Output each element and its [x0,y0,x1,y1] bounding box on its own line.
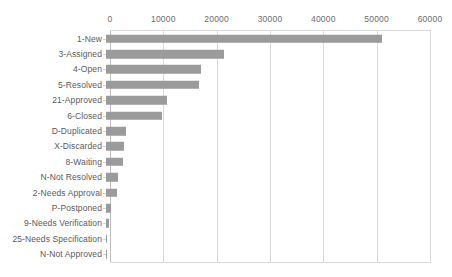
bar[interactable] [106,111,162,119]
category-label: 21-Approved [0,95,106,105]
category-label: 5-Resolved [0,80,106,90]
category-label: 1-New [0,34,106,44]
bar-track [106,108,426,123]
x-tick-label: 20000 [204,14,229,25]
bar[interactable] [106,158,123,166]
chart-row: 5-Resolved [0,77,452,92]
category-label: X-Discarded [0,141,106,151]
bar-track [106,77,426,92]
x-tick-label: 40000 [311,14,336,25]
category-label: 2-Needs Approval [0,188,106,198]
bar-track [106,93,426,108]
chart-row: 25-Needs Specification [0,231,452,246]
category-label: N-Not Approved [0,249,106,259]
category-label: N-Not Resolved [0,172,106,182]
x-tick-label: 60000 [418,14,443,25]
bar[interactable] [106,50,224,58]
bar-track [106,200,426,215]
category-label: 8-Waiting [0,157,106,167]
chart-row: D-Duplicated [0,123,452,138]
bar[interactable] [106,188,117,196]
bar-track [106,46,426,61]
bar[interactable] [106,204,111,212]
bar-track [106,139,426,154]
chart-rows: 1-New3-Assigned4-Open5-Resolved21-Approv… [0,31,452,262]
bar-track [106,123,426,138]
x-tick-label: 10000 [151,14,176,25]
chart-row: 21-Approved [0,93,452,108]
chart-row: 6-Closed [0,108,452,123]
bar-track [106,154,426,169]
chart-row: 1-New [0,31,452,46]
chart-row: N-Not Approved [0,247,452,262]
bar[interactable] [106,219,109,227]
category-label: 3-Assigned [0,49,106,59]
bar-track [106,231,426,246]
category-label: D-Duplicated [0,126,106,136]
x-tick-label: 30000 [258,14,283,25]
bar[interactable] [106,65,201,73]
chart-row: 4-Open [0,62,452,77]
category-label: P-Postponed [0,203,106,213]
chart-row: 9-Needs Verification [0,216,452,231]
bar[interactable] [106,173,118,181]
bar[interactable] [106,127,126,135]
chart-row: X-Discarded [0,139,452,154]
bar-track [106,185,426,200]
category-label: 4-Open [0,64,106,74]
category-label: 25-Needs Specification [0,234,106,244]
x-tick-label: 50000 [364,14,389,25]
chart-row: P-Postponed [0,200,452,215]
bar-track [106,216,426,231]
bar[interactable] [106,250,107,258]
bar-track [106,31,426,46]
bar-track [106,62,426,77]
bar[interactable] [106,34,382,42]
bar-chart: 0100002000030000400005000060000 1-New3-A… [0,0,452,277]
bar[interactable] [106,142,124,150]
x-axis-tick-labels: 0100002000030000400005000060000 [0,14,452,28]
x-tick-label: 0 [108,14,113,25]
category-label: 6-Closed [0,111,106,121]
category-label: 9-Needs Verification [0,218,106,228]
bottom-axis-line [110,262,431,263]
chart-row: N-Not Resolved [0,170,452,185]
bar[interactable] [106,96,167,104]
chart-row: 3-Assigned [0,46,452,61]
bar[interactable] [106,235,107,243]
chart-row: 2-Needs Approval [0,185,452,200]
bar-track [106,170,426,185]
bar[interactable] [106,81,199,89]
bar-track [106,247,426,262]
chart-row: 8-Waiting [0,154,452,169]
